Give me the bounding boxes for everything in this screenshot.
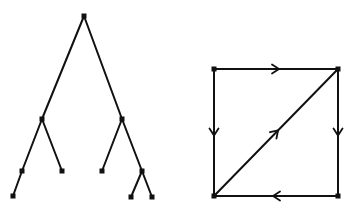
tree-node xyxy=(60,169,65,174)
graph-node xyxy=(212,67,217,72)
tree-edge xyxy=(122,119,142,171)
tree-edge xyxy=(84,16,122,119)
tree-node xyxy=(120,117,125,122)
directed-square-graph xyxy=(210,65,343,201)
tree-node xyxy=(20,169,25,174)
diagram-canvas xyxy=(0,0,354,213)
tree-edge xyxy=(13,171,22,196)
tree-edge xyxy=(142,171,152,197)
graph-edge xyxy=(214,69,338,196)
tree-node xyxy=(100,169,105,174)
tree-edge xyxy=(102,119,122,171)
binary-tree xyxy=(11,14,155,200)
tree-node xyxy=(11,194,16,199)
graph-node xyxy=(336,67,341,72)
tree-edge xyxy=(22,119,42,171)
tree-edge xyxy=(42,16,84,119)
tree-edge xyxy=(42,119,62,171)
tree-node xyxy=(150,195,155,200)
graph-node xyxy=(336,194,341,199)
tree-node xyxy=(129,195,134,200)
tree-node xyxy=(82,14,87,19)
tree-node xyxy=(140,169,145,174)
tree-node xyxy=(40,117,45,122)
tree-edge xyxy=(131,171,142,197)
graph-node xyxy=(212,194,217,199)
